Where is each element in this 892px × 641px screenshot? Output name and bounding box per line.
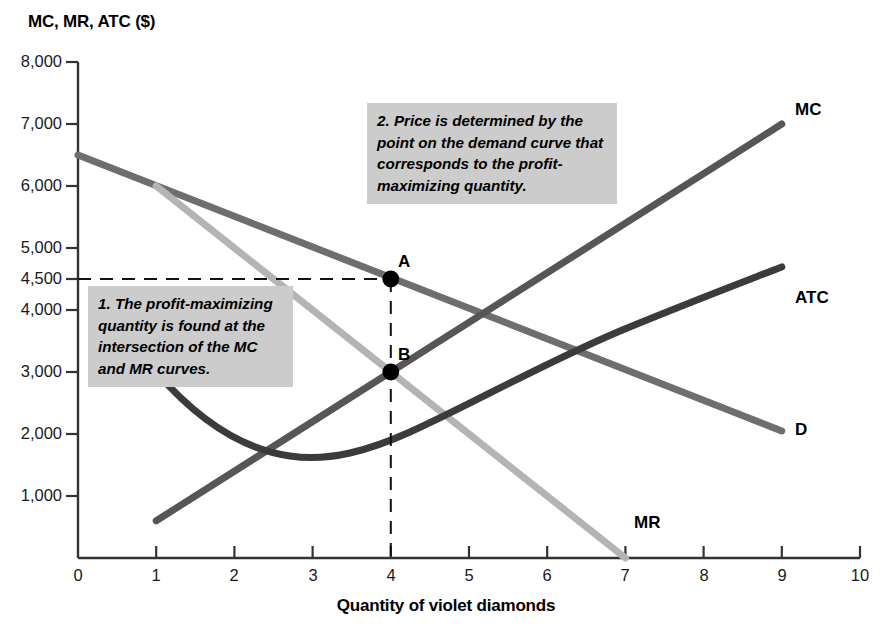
x-axis-title: Quantity of violet diamonds: [0, 596, 892, 616]
curve-label-d: D: [795, 420, 807, 440]
curve-label-atc: ATC: [795, 288, 829, 308]
chart-figure: MC, MR, ATC ($): [0, 0, 892, 641]
point-label-a: A: [398, 252, 410, 272]
y-tick-8000: 8,000: [0, 52, 62, 71]
x-tick-4: 4: [371, 566, 411, 585]
y-tick-7000: 7,000: [0, 114, 62, 133]
y-tick-4000: 4,000: [0, 300, 62, 319]
y-tick-5000: 5,000: [0, 238, 62, 257]
x-tick-0: 0: [58, 566, 98, 585]
x-tick-10: 10: [840, 566, 880, 585]
point-label-b: B: [398, 345, 410, 365]
y-tick-6000: 6,000: [0, 176, 62, 195]
y-axis-ticks: [66, 62, 78, 496]
y-tick-1000: 1,000: [0, 486, 62, 505]
x-tick-7: 7: [605, 566, 645, 585]
curve-label-mc: MC: [795, 100, 821, 120]
y-tick-3000: 3,000: [0, 362, 62, 381]
curve-label-mr: MR: [634, 513, 660, 533]
annotation-callout-1: 1. The profit-maximizing quantity is fou…: [88, 286, 293, 387]
x-axis-ticks: [156, 546, 860, 558]
x-tick-9: 9: [762, 566, 802, 585]
y-tick-2000: 2,000: [0, 424, 62, 443]
x-tick-1: 1: [136, 566, 176, 585]
data-point-b: [382, 364, 399, 381]
y-tick-4500: 4,500: [0, 269, 62, 288]
x-tick-6: 6: [527, 566, 567, 585]
x-tick-5: 5: [449, 566, 489, 585]
data-point-a: [382, 271, 399, 288]
x-tick-8: 8: [684, 566, 724, 585]
x-tick-2: 2: [214, 566, 254, 585]
x-tick-3: 3: [293, 566, 333, 585]
annotation-callout-2: 2. Price is determined by the point on t…: [367, 103, 617, 204]
